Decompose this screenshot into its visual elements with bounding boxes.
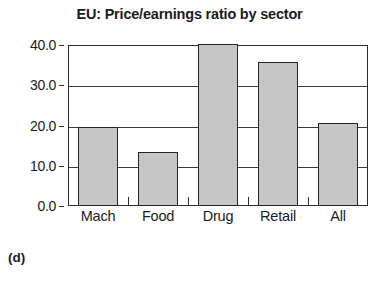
y-axis-tick-mark <box>59 45 64 46</box>
x-axis-tick-label: Food <box>142 208 174 224</box>
y-axis-tick-label: 20.0 <box>30 118 56 134</box>
x-axis: MachFoodDrugRetailAll <box>68 208 368 234</box>
x-axis-tick-mark <box>128 197 129 206</box>
y-axis-tick-label: 30.0 <box>30 77 56 93</box>
x-tick-layer <box>68 45 368 206</box>
y-axis-tick-mark <box>59 126 64 127</box>
chart-title: EU: Price/earnings ratio by sector <box>0 6 379 22</box>
y-axis-tick-label: 10.0 <box>30 158 56 174</box>
x-axis-tick-mark <box>188 197 189 206</box>
figure-panel: EU: Price/earnings ratio by sector 0.010… <box>0 0 379 281</box>
figure-caption: (d) <box>8 250 25 265</box>
y-axis-tick-label: 40.0 <box>30 37 56 53</box>
x-axis-tick-label: Drug <box>203 208 234 224</box>
y-axis-tick-label: 0.0 <box>37 198 56 214</box>
y-axis-tick-mark <box>59 85 64 86</box>
x-axis-tick-label: Mach <box>81 208 116 224</box>
x-axis-tick-mark <box>308 197 309 206</box>
y-axis-tick-mark <box>59 166 64 167</box>
x-axis-tick-label: Retail <box>260 208 296 224</box>
y-axis-tick-mark <box>59 206 64 207</box>
x-axis-tick-mark <box>248 197 249 206</box>
y-axis: 0.010.020.030.040.0 <box>0 45 64 206</box>
x-axis-tick-label: All <box>330 208 346 224</box>
